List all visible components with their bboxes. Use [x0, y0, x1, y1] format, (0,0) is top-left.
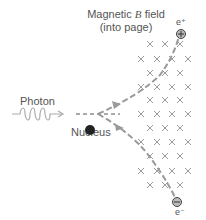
positron-track	[98, 32, 180, 114]
field-row-7	[147, 125, 183, 131]
field-row-11	[147, 182, 183, 188]
photon-wave-icon	[12, 108, 63, 120]
field-row-2	[138, 56, 191, 62]
electron-symbol-icon	[173, 198, 182, 207]
magnetic-field-marks	[138, 41, 191, 188]
field-row-9	[147, 153, 183, 159]
field-row-5	[147, 97, 183, 103]
field-row-6	[138, 111, 191, 117]
positron-arrow-icon	[112, 101, 121, 109]
pair-production-diagram	[0, 0, 206, 220]
nucleus-dot	[85, 125, 95, 135]
field-row-8	[138, 139, 191, 145]
positron-symbol-icon	[177, 30, 186, 39]
field-row-10	[138, 168, 191, 174]
field-row-3	[147, 70, 183, 76]
